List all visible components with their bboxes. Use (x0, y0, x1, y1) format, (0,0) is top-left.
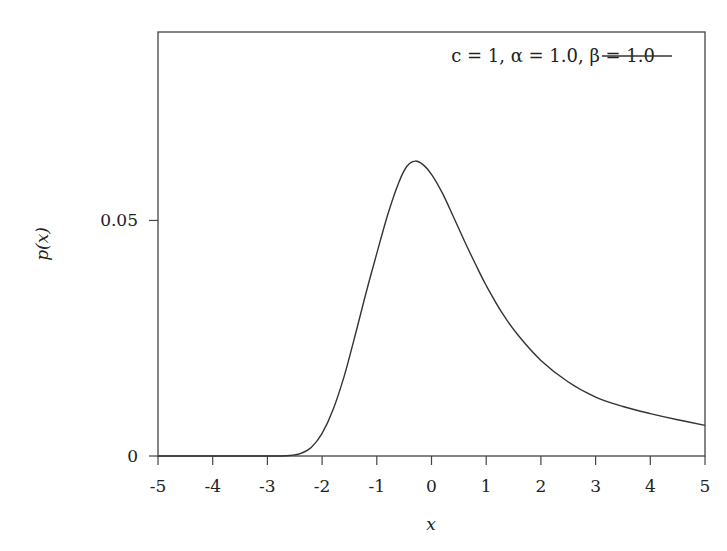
y-axis-label: p(x) (32, 227, 52, 261)
x-tick-label: 1 (481, 476, 492, 496)
x-axis-label: x (426, 514, 436, 534)
x-tick-label: 4 (645, 476, 656, 496)
y-tick-label: 0.05 (100, 210, 138, 230)
data-series-line (158, 161, 705, 456)
x-tick-label: 5 (700, 476, 711, 496)
legend: c = 1, α = 1.0, β = 1.0 (451, 45, 672, 66)
y-axis-ticks: 00.05 (100, 210, 158, 466)
x-tick-label: -1 (369, 476, 386, 496)
x-tick-label: 3 (590, 476, 601, 496)
chart: -5-4-3-2-1012345 00.05 x p(x) c = 1, α =… (0, 0, 727, 551)
x-tick-label: 0 (426, 476, 437, 496)
x-tick-label: -4 (204, 476, 221, 496)
x-tick-label: -5 (150, 476, 167, 496)
y-tick-label: 0 (127, 446, 138, 466)
x-tick-label: -3 (259, 476, 276, 496)
x-tick-label: 2 (535, 476, 546, 496)
x-tick-label: -2 (314, 476, 331, 496)
x-axis-ticks: -5-4-3-2-1012345 (150, 456, 711, 496)
plot-frame (158, 32, 705, 456)
